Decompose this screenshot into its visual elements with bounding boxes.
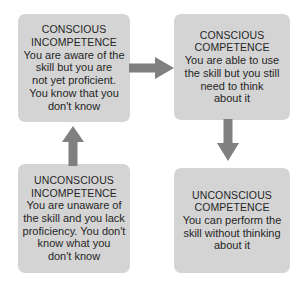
box-unconscious-incompetence: UNCONSCIOUS INCOMPETENCE You are unaware… (18, 164, 130, 273)
arrow-right-icon (129, 56, 175, 80)
box-body-line: You know that you (29, 87, 119, 100)
box-body-line: skill without thinking (183, 227, 280, 240)
box-body-line: the skill and you lack (23, 212, 125, 225)
box-unconscious-competence: UNCONSCIOUS COMPETENCE You can perform t… (174, 168, 290, 273)
box-heading-line: COMPETENCE (194, 201, 269, 214)
box-body-line: proficiency. You don't (23, 225, 126, 238)
box-heading-line: UNCONSCIOUS (192, 189, 272, 202)
box-body-line: need to think (201, 80, 264, 93)
arrow-down-icon (215, 119, 241, 161)
box-body-line: You are able to use (185, 54, 279, 67)
box-body-line: about it (214, 239, 250, 252)
box-heading-line: CONSCIOUS (42, 23, 107, 36)
box-body-line: skill but you are (36, 61, 112, 74)
box-body-line: You are unaware of (27, 199, 122, 212)
box-heading-line: CONSCIOUS (200, 29, 265, 42)
competence-diagram: CONSCIOUS INCOMPETENCE You are aware of … (0, 0, 305, 283)
box-heading-line: INCOMPETENCE (31, 36, 117, 49)
box-body-line: don't know (48, 100, 100, 113)
box-heading-line: INCOMPETENCE (31, 187, 117, 200)
arrow-up-icon (60, 126, 86, 166)
box-body-line: about it (214, 92, 250, 105)
box-body-line: the skill but you still (185, 67, 280, 80)
box-heading-line: UNCONSCIOUS (34, 174, 114, 187)
box-conscious-competence: CONSCIOUS COMPETENCE You are able to use… (174, 14, 290, 120)
box-conscious-incompetence: CONSCIOUS INCOMPETENCE You are aware of … (18, 14, 130, 122)
box-body-line: You can perform the (183, 214, 282, 227)
box-body-line: You are aware of the (23, 49, 124, 62)
box-body-line: don't know (48, 250, 100, 263)
box-body-line: know what you (38, 237, 111, 250)
box-heading-line: COMPETENCE (194, 41, 269, 54)
box-body-line: not yet proficient. (32, 74, 116, 87)
